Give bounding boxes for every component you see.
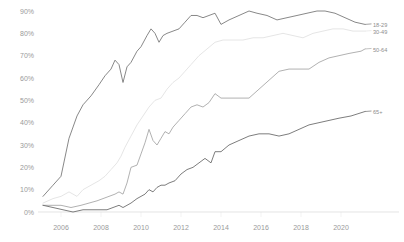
y-axis-tick-label: 70% — [20, 52, 34, 59]
series-line-65- — [43, 112, 365, 213]
series-leader-line — [365, 31, 372, 32]
series-line-30-49 — [43, 29, 365, 203]
x-axis-tick-label: 2020 — [333, 224, 349, 231]
y-axis-tick-label: 40% — [20, 119, 34, 126]
series-label-18-29: 18-29 — [373, 22, 387, 28]
series-group — [43, 11, 365, 212]
series-leader-line — [365, 48, 372, 49]
series-label-30-49: 30-49 — [373, 29, 387, 35]
x-axis-tick-label: 2014 — [213, 224, 229, 231]
x-axis-tick-label: 2018 — [293, 224, 309, 231]
y-axis-tick-label: 60% — [20, 75, 34, 82]
y-axis-tick-label: 30% — [20, 142, 34, 149]
series-label-65-: 65+ — [373, 109, 383, 115]
series-leader-line — [365, 111, 372, 112]
y-axis-tick-label: 0% — [24, 209, 34, 216]
series-leader-line — [365, 24, 372, 25]
y-axis-group: 0%10%20%30%40%50%60%70%80%90% — [20, 8, 34, 216]
x-axis-tick-label: 2012 — [173, 224, 189, 231]
y-axis-tick-label: 10% — [20, 186, 34, 193]
y-axis-tick-label: 50% — [20, 97, 34, 104]
series-label-50-64: 50-64 — [373, 47, 387, 53]
x-axis-tick-label: 2010 — [133, 224, 149, 231]
x-axis-tick-label: 2006 — [53, 224, 69, 231]
x-axis-tick-label: 2008 — [93, 224, 109, 231]
y-axis-tick-label: 20% — [20, 164, 34, 171]
y-axis-tick-label: 80% — [20, 30, 34, 37]
x-axis-group: 20062008201020122014201620182020 — [53, 212, 349, 231]
chart-canvas: 0%10%20%30%40%50%60%70%80%90% 2006200820… — [0, 0, 404, 242]
series-line-18-29 — [43, 11, 365, 196]
y-axis-tick-label: 90% — [20, 8, 34, 15]
series-labels-group: 18-2930-4950-6465+ — [365, 22, 387, 115]
x-axis-tick-label: 2016 — [253, 224, 269, 231]
series-line-50-64 — [43, 49, 365, 208]
line-chart: 0%10%20%30%40%50%60%70%80%90% 2006200820… — [0, 0, 404, 242]
